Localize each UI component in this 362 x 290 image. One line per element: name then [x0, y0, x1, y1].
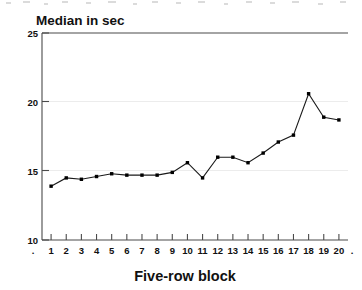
x-tick-label-11: 11	[198, 245, 209, 256]
data-point-16	[277, 140, 280, 143]
x-tick-label-17: 17	[288, 245, 299, 256]
data-point-5	[110, 172, 113, 175]
data-point-12	[216, 156, 219, 159]
median-line-chart: Median in sec 25 20 15 10 12345678910111…	[0, 0, 362, 290]
x-tick-label-18: 18	[303, 245, 314, 256]
data-point-15	[261, 151, 264, 154]
x-tick-label-10: 10	[182, 245, 193, 256]
data-point-11	[201, 176, 204, 179]
data-point-2	[65, 176, 68, 179]
x-tick-label-8: 8	[154, 245, 159, 256]
x-tick-label-1: 1	[48, 245, 54, 256]
x-axis-end-dot-right: .	[351, 245, 354, 256]
data-point-4	[95, 175, 98, 178]
data-point-10	[186, 161, 189, 164]
x-tick-label-6: 6	[124, 245, 129, 256]
x-tick-label-13: 13	[228, 245, 239, 256]
y-tick-label-15: 15	[27, 166, 38, 177]
data-point-7	[140, 173, 143, 176]
x-tick-label-5: 5	[109, 245, 115, 256]
x-tick-label-7: 7	[139, 245, 144, 256]
data-point-20	[337, 118, 340, 121]
data-point-8	[155, 173, 158, 176]
x-tick-label-19: 19	[318, 245, 329, 256]
data-point-18	[307, 92, 310, 95]
x-tick-label-14: 14	[243, 245, 254, 256]
data-point-14	[246, 161, 249, 164]
x-tick-label-16: 16	[273, 245, 284, 256]
x-axis-title: Five-row block	[134, 268, 236, 284]
y-tick-label-20: 20	[27, 97, 38, 108]
data-point-1	[49, 184, 52, 187]
chart-container: Median in sec 25 20 15 10 12345678910111…	[0, 0, 362, 290]
plot-title: Median in sec	[36, 13, 125, 28]
x-tick-label-3: 3	[79, 245, 84, 256]
data-point-13	[231, 156, 234, 159]
x-tick-label-9: 9	[170, 245, 175, 256]
data-point-17	[292, 133, 295, 136]
data-point-6	[125, 173, 128, 176]
x-tick-label-20: 20	[334, 245, 345, 256]
x-tick-label-2: 2	[64, 245, 69, 256]
data-point-3	[80, 178, 83, 181]
x-tick-label-15: 15	[258, 245, 269, 256]
x-axis-end-dot-left: .	[32, 245, 35, 256]
data-point-9	[171, 171, 174, 174]
x-tick-label-12: 12	[212, 245, 223, 256]
y-tick-label-25: 25	[27, 28, 38, 39]
data-point-19	[322, 115, 325, 118]
x-tick-label-4: 4	[94, 245, 100, 256]
